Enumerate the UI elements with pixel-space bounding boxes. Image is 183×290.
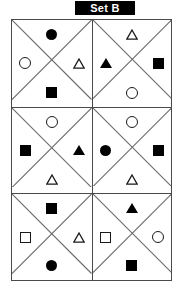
circle-open-icon <box>126 87 138 99</box>
slot-bottom <box>124 85 140 101</box>
slot-top <box>124 26 140 42</box>
slot-bottom <box>44 85 60 101</box>
figure-grid <box>11 19 172 281</box>
circle-open-icon <box>152 231 164 243</box>
triangle-open-icon <box>73 58 85 69</box>
grid-cell-top-right[interactable] <box>92 20 172 107</box>
slot-left <box>17 55 33 71</box>
circle-open-icon <box>126 116 138 128</box>
slot-right <box>150 229 166 245</box>
slot-bottom <box>44 171 60 187</box>
slot-top <box>44 114 60 130</box>
grid-cell-top-left[interactable] <box>12 20 92 107</box>
square-open-icon <box>100 232 111 243</box>
square-filled-icon <box>46 87 57 98</box>
slot-bottom <box>124 171 140 187</box>
circle-filled-icon <box>100 145 111 156</box>
slot-top <box>124 114 140 130</box>
square-filled-icon <box>126 260 137 271</box>
slot-left <box>98 229 114 245</box>
slot-left <box>17 142 33 158</box>
square-filled-icon <box>46 203 57 214</box>
triangle-filled-icon <box>126 203 138 213</box>
circle-filled-icon <box>46 260 57 271</box>
slot-bottom <box>124 258 140 274</box>
slot-top <box>44 26 60 42</box>
slot-right <box>150 55 166 71</box>
slot-right <box>150 142 166 158</box>
square-filled-icon <box>153 58 164 69</box>
triangle-open-icon <box>46 174 58 185</box>
slot-top <box>44 200 60 216</box>
slot-top <box>124 200 140 216</box>
triangle-open-icon <box>73 232 85 243</box>
grid-cell-bottom-right[interactable] <box>92 193 172 280</box>
slot-right <box>71 229 87 245</box>
slot-right <box>71 55 87 71</box>
slot-left <box>98 55 114 71</box>
triangle-open-icon <box>126 29 138 40</box>
grid-cell-middle-right[interactable] <box>92 107 172 194</box>
set-title-label: Set B <box>90 3 120 14</box>
slot-bottom <box>44 258 60 274</box>
set-title-banner: Set B <box>75 1 135 15</box>
grid-cell-bottom-left[interactable] <box>12 193 92 280</box>
circle-filled-icon <box>46 29 57 40</box>
triangle-open-icon <box>126 174 138 185</box>
slot-right <box>71 142 87 158</box>
circle-open-icon <box>46 116 58 128</box>
square-filled-icon <box>153 145 164 156</box>
slot-left <box>17 229 33 245</box>
triangle-filled-icon <box>100 58 112 68</box>
square-open-icon <box>20 232 31 243</box>
square-filled-icon <box>20 145 31 156</box>
circle-open-icon <box>19 57 31 69</box>
grid-cell-middle-left[interactable] <box>12 107 92 194</box>
slot-left <box>98 142 114 158</box>
triangle-filled-icon <box>73 145 85 155</box>
